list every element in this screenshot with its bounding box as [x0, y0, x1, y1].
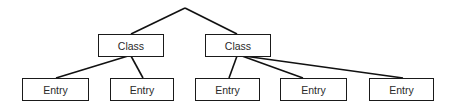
edge-class-1-entry-2: [131, 56, 143, 78]
edge-class-1-entry-1: [56, 56, 128, 78]
entry-node-2: Entry: [110, 78, 174, 101]
edge-root-class-2: [185, 8, 237, 34]
class-hierarchy-diagram: Class Class Entry Entry Entry Entry Entr…: [0, 0, 455, 112]
class-node-1: Class: [98, 34, 164, 57]
class-node-2: Class: [205, 34, 271, 57]
edge-class-2-entry-5: [244, 56, 403, 78]
edge-class-2-entry-3: [229, 56, 237, 78]
edge-root-class-1: [131, 8, 185, 34]
entry-node-4: Entry: [280, 78, 347, 101]
entry-node-5: Entry: [369, 78, 434, 101]
entry-node-3: Entry: [195, 78, 260, 101]
entry-node-1: Entry: [22, 78, 89, 101]
